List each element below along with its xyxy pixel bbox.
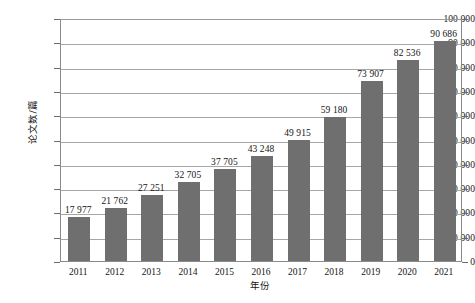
bar: [434, 41, 456, 261]
bar: [141, 195, 163, 261]
bar: [288, 140, 310, 261]
bar-value-label: 90 686: [417, 29, 471, 40]
y-tick-mark-right: [462, 68, 468, 69]
y-tick-mark-right: [462, 19, 468, 20]
bar: [214, 169, 236, 261]
y-tick-mark-right: [462, 43, 468, 44]
bar-value-label: 49 915: [271, 128, 325, 139]
x-axis-title: 年份: [250, 280, 270, 291]
y-tick-mark-right: [462, 165, 468, 166]
bar-value-label: 32 705: [161, 170, 215, 181]
bar: [324, 117, 346, 261]
bar: [361, 81, 383, 261]
x-tick-label: 2021: [422, 267, 466, 278]
y-tick-mark-right: [462, 213, 468, 214]
gridline: [61, 44, 461, 45]
y-tick-mark: [54, 262, 60, 263]
bar-value-label: 21 762: [88, 196, 142, 207]
bar: [251, 156, 273, 261]
bar-value-label: 82 536: [380, 48, 434, 59]
bar: [68, 217, 90, 261]
y-tick-mark-right: [462, 116, 468, 117]
bar-chart: 论文数/篇 010 00020 00030 00040 00050 00060 …: [0, 0, 475, 303]
bar-value-label: 37 705: [197, 157, 251, 168]
y-tick-mark-right: [462, 141, 468, 142]
y-tick-mark-right: [462, 238, 468, 239]
y-axis-title: 论文数/篇: [27, 87, 39, 157]
bar: [105, 208, 127, 261]
y-tick-mark-right: [462, 92, 468, 93]
bar-value-label: 43 248: [234, 144, 288, 155]
bar-value-label: 73 907: [344, 69, 398, 80]
bar-value-label: 27 251: [124, 183, 178, 194]
bar-value-label: 59 180: [307, 105, 361, 116]
bar: [397, 60, 419, 261]
y-tick-mark-right: [462, 262, 468, 263]
bar: [178, 182, 200, 261]
y-tick-mark-right: [462, 189, 468, 190]
